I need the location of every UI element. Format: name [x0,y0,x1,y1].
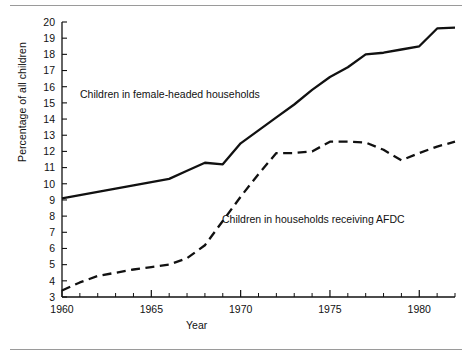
y-tick-label: 13 [43,129,55,141]
y-tick-label: 3 [49,291,55,303]
series-label-female-headed-households: Children in female-headed households [80,88,260,100]
data-series-group [62,28,455,291]
x-tick-label: 1965 [140,303,164,315]
x-axis: 19601965197019751980 [50,290,455,315]
y-axis-title: Percentage of all children [16,17,28,187]
y-tick-label: 9 [49,194,55,206]
y-tick-label: 12 [43,145,55,157]
y-tick-label: 14 [43,113,55,125]
y-tick-label: 17 [43,64,55,76]
x-tick-label: 1975 [318,303,342,315]
x-tick-label: 1960 [50,303,74,315]
top-divider-rule [10,5,462,6]
bottom-divider-rule [10,349,462,350]
x-axis-title: Year [186,319,207,331]
y-tick-label: 7 [49,226,55,238]
y-tick-label: 11 [44,161,55,173]
series-line-female-headed-households [62,28,455,199]
y-tick-label: 16 [43,81,55,93]
y-tick-label: 18 [43,48,55,60]
y-tick-label: 4 [49,275,55,287]
y-tick-label: 8 [49,210,55,222]
figure-container: 34567891011121314151617181920 1960196519… [0,0,471,357]
y-tick-label: 6 [49,242,55,254]
y-tick-label: 10 [43,178,55,190]
line-chart: 34567891011121314151617181920 1960196519… [0,8,471,346]
y-axis: 34567891011121314151617181920 [43,16,67,303]
x-tick-label: 1970 [229,303,253,315]
plot-area: 34567891011121314151617181920 1960196519… [0,8,471,346]
y-tick-label: 19 [43,32,55,44]
y-tick-label: 5 [49,258,55,270]
x-tick-label: 1980 [408,303,432,315]
y-tick-label: 15 [43,97,55,109]
y-tick-label: 20 [43,16,55,28]
series-label-afdc: Children in households receiving AFDC [222,213,405,225]
